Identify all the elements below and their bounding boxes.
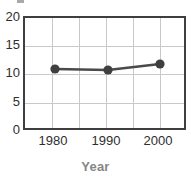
x-tick-label-1980: 1980 [30, 133, 76, 149]
y-tick-label-15: 15 [0, 38, 20, 51]
data-point-1990[interactable] [103, 65, 112, 74]
cropped-label-artifact [17, 0, 24, 3]
data-point-1980[interactable] [50, 64, 59, 73]
y-axis-tick-labels: 20 15 10 5 0 [0, 16, 20, 130]
y-tick-label-20: 20 [0, 10, 20, 23]
x-tick-label-1990: 1990 [83, 133, 129, 149]
y-tick-label-0: 0 [0, 123, 20, 136]
y-tick-label-10: 10 [0, 66, 20, 79]
line-chart-figure: 20 15 10 5 0 1980 [0, 0, 191, 183]
x-axis-tick-labels: 1980 1990 2000 [23, 133, 186, 151]
x-tick-label-2000: 2000 [135, 133, 181, 149]
series-svg [25, 18, 188, 132]
data-series-layer [25, 18, 184, 128]
y-tick-label-5: 5 [0, 95, 20, 108]
data-point-2000[interactable] [155, 59, 164, 68]
plot-area [23, 16, 186, 130]
x-axis-title: Year [0, 159, 191, 174]
